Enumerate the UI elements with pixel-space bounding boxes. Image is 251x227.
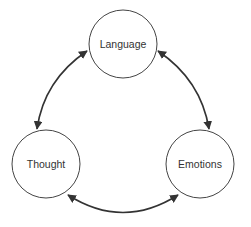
node-thought-label: Thought (27, 158, 66, 170)
edge-thought-emotions (68, 195, 178, 213)
edge-language-thought (37, 51, 87, 129)
node-emotions-label: Emotions (178, 158, 222, 170)
node-language-label: Language (100, 38, 147, 50)
node-emotions: Emotions (166, 130, 234, 198)
cycle-diagram: Language Thought Emotions (0, 0, 251, 227)
edge-language-emotions (158, 51, 209, 129)
node-thought: Thought (12, 130, 80, 198)
node-language: Language (89, 10, 157, 78)
